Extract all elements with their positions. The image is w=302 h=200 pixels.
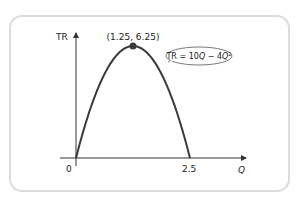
y-axis-label: TR	[55, 32, 68, 42]
peak-label: (1.25, 6.25)	[107, 32, 160, 42]
tr-curve	[76, 46, 190, 158]
equation-text: TR = 10Q − 4Q2	[165, 51, 231, 61]
peak-point	[130, 43, 137, 50]
chart: TR Q 0 2.5 (1.25, 6.25) TR = 10Q − 4Q2	[0, 0, 302, 200]
x-tick-label-0: 0	[66, 164, 72, 174]
x-axis-label: Q	[238, 165, 245, 175]
equation-callout: TR = 10Q − 4Q2	[165, 47, 232, 65]
x-tick-label-1: 2.5	[182, 164, 196, 174]
